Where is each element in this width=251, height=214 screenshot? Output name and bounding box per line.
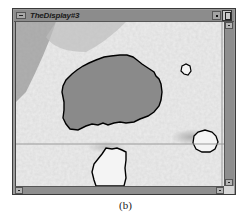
size-grip[interactable] [224, 186, 234, 194]
title-bar[interactable]: TheDisplay#3 [14, 10, 234, 22]
down-arrow-icon[interactable] [225, 179, 233, 186]
image-viewport[interactable] [15, 22, 225, 186]
left-arrow-icon[interactable] [15, 187, 23, 194]
figure-caption: (b) [0, 199, 251, 211]
segmentation-image [16, 22, 225, 186]
up-arrow-icon[interactable] [225, 22, 233, 29]
vertical-scrollbar[interactable] [224, 22, 234, 186]
minimize-button[interactable] [212, 11, 221, 20]
window-title: TheDisplay#3 [30, 10, 79, 21]
display-window: TheDisplay#3 [12, 8, 236, 195]
maximize-button[interactable] [222, 10, 232, 21]
horizontal-scrollbar[interactable] [15, 186, 224, 194]
right-arrow-icon[interactable] [216, 187, 224, 194]
system-menu-icon[interactable] [16, 12, 26, 19]
